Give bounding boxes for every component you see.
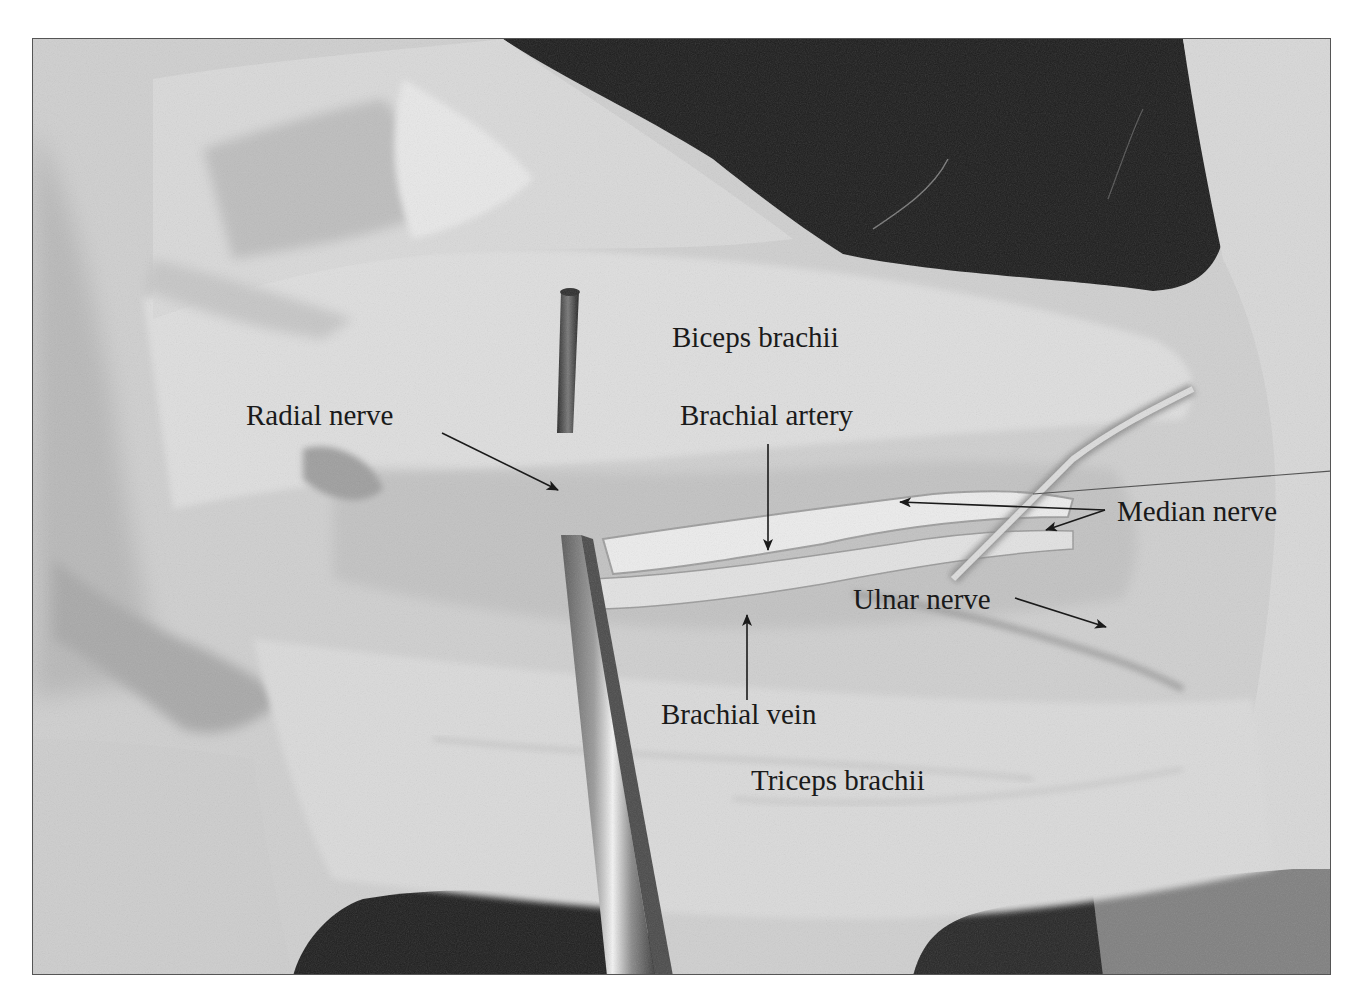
label-brachial-artery: Brachial artery: [680, 401, 853, 430]
label-radial-nerve: Radial nerve: [246, 401, 393, 430]
label-ulnar-nerve: Ulnar nerve: [853, 585, 991, 614]
label-biceps-brachii: Biceps brachii: [672, 323, 839, 352]
label-brachial-vein: Brachial vein: [661, 700, 816, 729]
label-triceps-brachii: Triceps brachii: [751, 766, 925, 795]
label-median-nerve: Median nerve: [1117, 497, 1277, 526]
